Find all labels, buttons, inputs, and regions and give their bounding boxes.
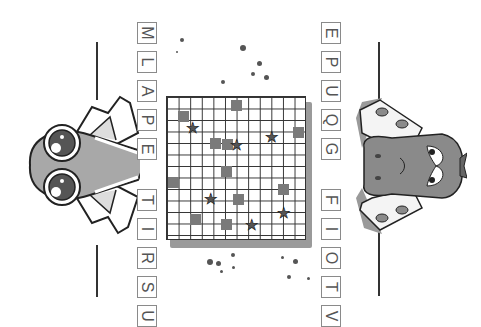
shaded-cell [293,127,304,138]
shaded-cell [190,214,201,225]
right-character [352,98,467,238]
letter-tile[interactable]: T [137,189,157,211]
letter-tile[interactable]: G [321,138,341,160]
star-icon[interactable]: ★ [204,192,217,207]
letter: F [323,195,339,205]
letter-tile[interactable]: U [321,80,341,102]
star-icon[interactable]: ★ [230,138,243,153]
letter: I [323,227,339,231]
left-divider-line-lower [96,245,98,297]
letter-tile[interactable]: O [321,247,341,269]
letter: P [323,57,339,68]
letter-tile[interactable]: I [137,218,157,240]
shaded-cell [221,219,232,230]
letter: E [139,144,155,155]
letter-tile[interactable]: E [137,138,157,160]
letter: L [139,58,155,67]
letter-tile[interactable]: F [321,189,341,211]
letter-tile[interactable]: R [137,247,157,269]
shaded-cell [233,194,244,205]
letter-tile[interactable]: U [137,305,157,327]
letter-tile[interactable]: Q [321,109,341,131]
star-icon[interactable]: ★ [265,130,278,145]
letter-tile[interactable]: S [137,276,157,298]
right-letter-column: E P U Q G F I O T V [321,22,343,312]
shaded-cell [210,138,221,149]
letter: V [323,311,339,322]
letter: Q [323,114,339,126]
letter: R [139,252,155,264]
letter: T [323,282,339,292]
left-character [20,95,140,235]
frog-creature-icon [20,95,140,235]
letter-tile[interactable]: M [137,22,157,44]
letter: T [139,195,155,205]
shaded-cell [278,184,289,195]
shaded-cell [221,166,232,177]
star-icon[interactable]: ★ [245,218,258,233]
right-divider-line [378,42,380,102]
star-icon[interactable]: ★ [186,121,199,136]
letter-tile[interactable]: L [137,51,157,73]
shaded-cell [231,100,242,111]
right-divider-line-lower [378,232,380,296]
letter-tile[interactable]: A [137,80,157,102]
letter: I [139,227,155,231]
letter: G [323,143,339,155]
letter-tile[interactable]: I [321,218,341,240]
letter: U [323,85,339,97]
letter: E [323,28,339,39]
letter: O [323,252,339,264]
grumpy-creature-icon [352,98,467,238]
letter: A [139,86,155,97]
star-icon[interactable]: ★ [277,206,290,221]
letter: P [139,115,155,126]
letter-tile[interactable]: E [321,22,341,44]
letter: S [139,282,155,293]
game-board[interactable]: ★ ★ ★ ★ ★ ★ [166,96,308,244]
letter: M [139,26,155,39]
letter-tile[interactable]: V [321,305,341,327]
left-letter-column: M L A P E T I R S U [137,22,159,312]
letter-tile[interactable]: P [321,51,341,73]
left-divider-line [96,42,98,100]
letter: U [139,310,155,322]
letter-tile[interactable]: P [137,109,157,131]
letter-tile[interactable]: T [321,276,341,298]
shaded-cell [168,177,179,188]
